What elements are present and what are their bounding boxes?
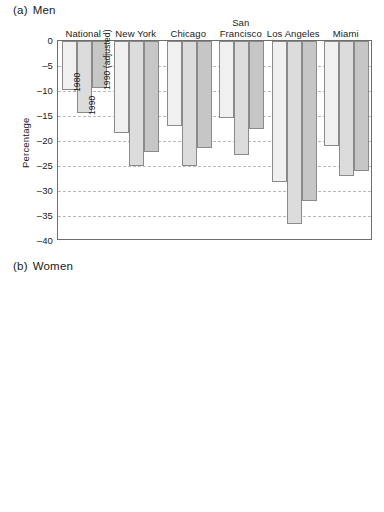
panel-women-tag: (b)	[13, 260, 28, 272]
bar	[197, 41, 212, 148]
bar	[339, 41, 354, 176]
gridline	[58, 216, 371, 217]
gridline	[58, 191, 371, 192]
bar	[249, 41, 264, 129]
category-label-line1: Chicago	[170, 28, 206, 39]
panel-men-tag: (a)	[13, 4, 28, 16]
series-legend-note: 1980	[72, 73, 82, 92]
category-label-line1: New York	[115, 28, 156, 39]
panel-women-label: Women	[33, 260, 73, 272]
gridline	[58, 166, 371, 167]
panel-women: (b)Women Percentage 0–5–10–15–20–25–30–3…	[0, 256, 384, 512]
y-axis-tick-label: –20	[13, 135, 53, 146]
bar	[167, 41, 182, 126]
y-axis-tick-label: 0	[13, 35, 53, 46]
bar	[144, 41, 159, 152]
category-label: Miami	[314, 29, 379, 40]
panel-women-title: (b)Women	[13, 260, 73, 272]
bar	[272, 41, 287, 182]
bar	[287, 41, 302, 224]
y-axis-tick-label: –40	[13, 235, 53, 246]
bar	[302, 41, 317, 201]
panel-men-title: (a)Men	[13, 4, 56, 16]
category-label-line1: Los Angeles	[267, 28, 320, 39]
bar	[234, 41, 249, 155]
y-axis-tick-label: –25	[13, 160, 53, 171]
category-label-line1: San	[232, 17, 249, 28]
panel-men-label: Men	[33, 4, 56, 16]
category-label-line1: Miami	[333, 28, 359, 39]
y-axis-tick-label: –5	[13, 60, 53, 71]
panel-men: (a)Men Percentage 0–5–10–15–20–25–30–35–…	[0, 0, 384, 256]
bar	[354, 41, 369, 171]
bar	[324, 41, 339, 146]
y-axis-tick-label: –10	[13, 85, 53, 96]
bar	[182, 41, 197, 166]
bar	[114, 41, 129, 133]
series-legend-note: 1990	[87, 95, 97, 114]
category-label-line2: Francisco	[220, 28, 262, 39]
bar	[219, 41, 234, 118]
series-legend-note: 1990 (adjusted)	[102, 29, 112, 90]
y-axis-tick-label: –35	[13, 210, 53, 221]
y-axis-tick-label: –30	[13, 185, 53, 196]
category-label-line1: National	[65, 28, 101, 39]
bar	[129, 41, 144, 166]
y-axis-tick-label: –15	[13, 110, 53, 121]
